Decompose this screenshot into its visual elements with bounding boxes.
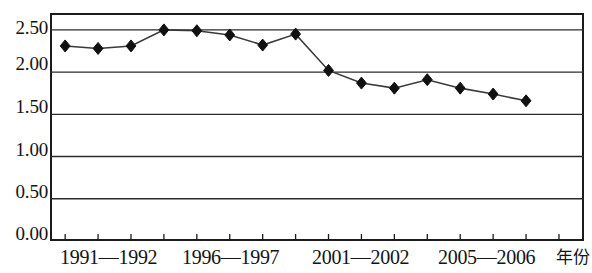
x-tick-label-2001-2002: 2001—2002 [312, 244, 409, 270]
data-point-marker [357, 77, 367, 89]
x-axis-title: 年份 [556, 246, 590, 270]
y-tick-label-150: 1.50 [2, 97, 48, 116]
x-tick-label-1996-1997: 1996—1997 [182, 244, 279, 270]
data-point-marker [126, 40, 136, 52]
y-axis-tick-labels: 2.50 2.00 1.50 1.00 0.50 0.00 [0, 0, 48, 273]
y-tick-label-250: 2.50 [2, 18, 48, 37]
line-chart-figure: 2.50 2.00 1.50 1.00 0.50 0.00 1991—1992 … [0, 0, 592, 273]
data-point-marker [521, 95, 531, 107]
data-point-marker [258, 39, 268, 51]
x-axis-ticks [65, 234, 559, 241]
data-point-marker [389, 82, 399, 94]
data-point-marker [60, 40, 70, 52]
data-point-marker [455, 82, 465, 94]
y-tick-label-200: 2.00 [2, 54, 48, 73]
y-tick-label-050: 0.50 [2, 182, 48, 201]
data-point-marker [488, 88, 498, 100]
data-point-marker [225, 29, 235, 41]
data-point-marker [93, 42, 103, 54]
x-tick-label-1991-1992: 1991—1992 [60, 244, 157, 270]
data-point-marker [192, 25, 202, 37]
data-point-markers [60, 24, 531, 107]
x-axis-tick-labels: 1991—1992 1996—1997 2001—2002 2005—2006 … [0, 244, 592, 273]
plot-area [50, 13, 584, 241]
data-point-marker [159, 24, 169, 36]
y-tick-label-000: 0.00 [2, 224, 48, 243]
gridlines [50, 30, 584, 199]
y-tick-label-100: 1.00 [2, 140, 48, 159]
x-tick-label-2005-2006: 2005—2006 [438, 244, 535, 270]
data-point-marker [422, 74, 432, 86]
